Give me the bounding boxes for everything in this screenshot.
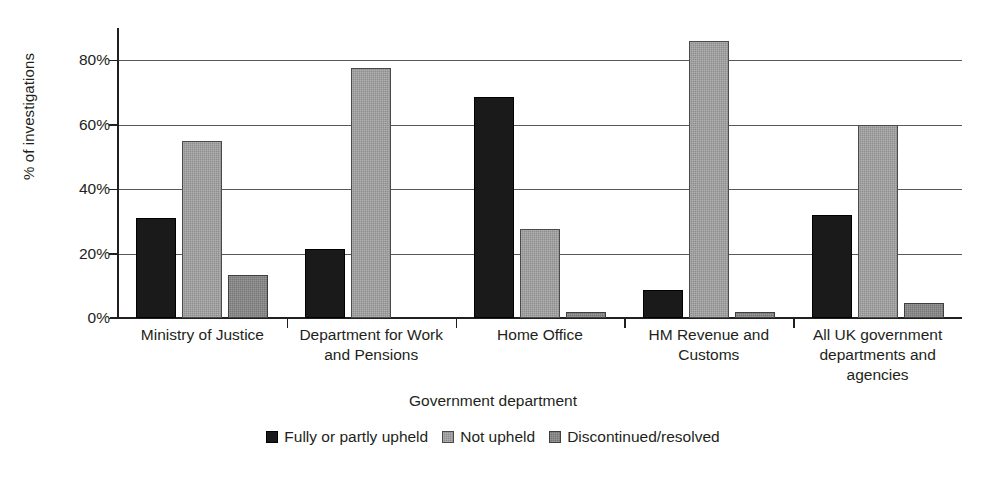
- x-axis-category-label-line: Department for Work: [279, 325, 464, 345]
- chart-legend: Fully or partly upheldNot upheldDisconti…: [0, 428, 986, 446]
- x-axis-category-label: All UK governmentdepartments andagencies: [785, 325, 970, 385]
- x-axis-category-label: HM Revenue andCustoms: [616, 325, 801, 365]
- bar: [136, 218, 176, 318]
- x-axis-category-label: Department for Workand Pensions: [279, 325, 464, 365]
- bar: [735, 312, 775, 318]
- y-axis-tick-label: 0%: [62, 310, 110, 326]
- gridline: [118, 60, 962, 61]
- bar: [812, 215, 852, 318]
- x-axis-category-label: Home Office: [448, 325, 633, 345]
- legend-label: Discontinued/resolved: [567, 428, 720, 446]
- bar: [858, 125, 898, 318]
- y-axis-tick-label: 40%: [62, 181, 110, 197]
- legend-label: Fully or partly upheld: [284, 428, 428, 446]
- x-axis-category-label-line: departments and: [785, 345, 970, 365]
- y-axis-tick-labels: 0%20%40%60%80%: [62, 0, 110, 490]
- y-axis-line: [117, 28, 119, 318]
- x-axis-category-label-line: Home Office: [448, 325, 633, 345]
- y-axis-tickmark: [109, 60, 119, 62]
- bar: [520, 229, 560, 318]
- y-axis-tickmark: [109, 318, 119, 320]
- bar: [904, 303, 944, 318]
- x-axis-category-label-line: Customs: [616, 345, 801, 365]
- x-axis-category-label-line: HM Revenue and: [616, 325, 801, 345]
- bar: [474, 97, 514, 318]
- bar: [643, 290, 683, 318]
- bar: [182, 141, 222, 318]
- x-axis-category-label-line: agencies: [785, 365, 970, 385]
- y-axis-title: % of investigations: [20, 27, 37, 207]
- y-axis-tickmark: [109, 253, 119, 255]
- x-axis-category-label-line: All UK government: [785, 325, 970, 345]
- y-axis-tickmark: [109, 189, 119, 191]
- x-axis-category-label-line: and Pensions: [279, 345, 464, 365]
- bar: [305, 249, 345, 318]
- x-axis-category-label: Ministry of Justice: [110, 325, 295, 345]
- bar: [228, 275, 268, 319]
- legend-item[interactable]: Discontinued/resolved: [549, 428, 720, 446]
- y-axis-tick-label: 80%: [62, 52, 110, 68]
- y-axis-tick-label: 60%: [62, 117, 110, 133]
- legend-swatch-icon: [442, 431, 454, 443]
- x-axis-category-labels: Ministry of JusticeDepartment for Workan…: [118, 325, 962, 393]
- x-axis-category-label-line: Ministry of Justice: [110, 325, 295, 345]
- legend-item[interactable]: Not upheld: [442, 428, 535, 446]
- gridline: [118, 189, 962, 190]
- legend-label: Not upheld: [460, 428, 535, 446]
- x-axis-title: Government department: [0, 392, 986, 410]
- legend-swatch-icon: [549, 431, 561, 443]
- gridline: [118, 125, 962, 126]
- bar-chart: % of investigations 0%20%40%60%80% Minis…: [0, 0, 986, 490]
- y-axis-tickmark: [109, 124, 119, 126]
- legend-swatch-icon: [266, 431, 278, 443]
- bar: [351, 68, 391, 318]
- bar: [689, 41, 729, 318]
- bar: [566, 312, 606, 318]
- y-axis-tick-label: 20%: [62, 246, 110, 262]
- legend-item[interactable]: Fully or partly upheld: [266, 428, 428, 446]
- plot-area: [118, 28, 962, 318]
